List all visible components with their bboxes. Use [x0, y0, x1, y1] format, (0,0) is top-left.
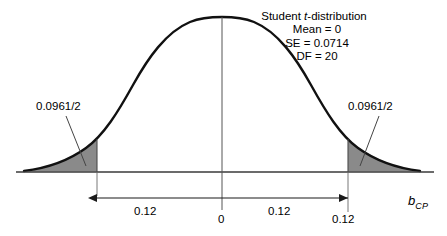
dimension-label-left: 0.12 [134, 205, 156, 217]
info-title: Student t-distribution [228, 10, 400, 23]
axis-variable-subscript: CP [415, 201, 428, 211]
left-tail-probability-label: 0.0961/2 [36, 101, 81, 113]
dimension-label-right: 0.12 [268, 205, 290, 217]
figure-canvas: Student t-distribution Mean = 0 SE = 0.0… [0, 0, 447, 236]
axis-variable-label: bCP [408, 193, 428, 211]
info-df: DF = 20 [228, 50, 400, 63]
info-se: SE = 0.0714 [228, 37, 400, 50]
right-tail-probability-label: 0.0961/2 [348, 101, 393, 113]
left-tail-shaded-region [28, 139, 97, 172]
tick-label-right-critical: 0.12 [332, 213, 354, 225]
tick-label-center-zero: 0 [218, 213, 224, 225]
distribution-info-box: Student t-distribution Mean = 0 SE = 0.0… [228, 10, 400, 64]
right-tail-shaded-region [348, 139, 417, 172]
info-title-suffix: -distribution [307, 10, 366, 22]
info-title-prefix: Student [261, 10, 304, 22]
info-mean: Mean = 0 [228, 23, 400, 36]
